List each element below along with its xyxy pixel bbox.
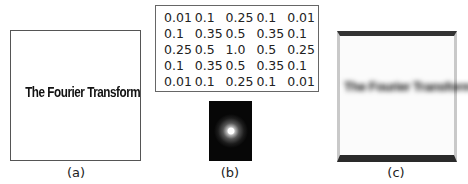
original-text: The Fourier Transform [25, 83, 126, 100]
kernel-cell: 0.01 [287, 74, 318, 90]
kernel-cell: 0.5 [226, 58, 257, 74]
kernel-cell: 0.5 [256, 42, 287, 58]
kernel-image [209, 101, 252, 161]
panel-c-blurred-image: The Fourier Transform [337, 31, 457, 162]
kernel-row: 0.25 0.5 1.0 0.5 0.25 [164, 42, 318, 58]
kernel-cell: 0.5 [195, 42, 226, 58]
kernel-row: 0.01 0.1 0.25 0.1 0.01 [164, 10, 318, 26]
kernel-cell: 0.1 [287, 26, 318, 42]
kernel-cell: 1.0 [226, 42, 257, 58]
kernel-cell: 0.25 [226, 74, 257, 90]
kernel-cell: 0.1 [256, 10, 287, 26]
blurred-text: The Fourier Transform [344, 79, 450, 97]
kernel-cell: 0.35 [195, 26, 226, 42]
kernel-cell: 0.1 [195, 74, 226, 90]
kernel-table: 0.01 0.1 0.25 0.1 0.01 0.1 0.35 0.5 0.35… [155, 5, 319, 92]
kernel-cell: 0.1 [164, 58, 195, 74]
kernel-row: 0.1 0.35 0.5 0.35 0.1 [164, 58, 318, 74]
kernel-cell: 0.1 [287, 58, 318, 74]
kernel-cell: 0.25 [226, 10, 257, 26]
kernel-row: 0.01 0.1 0.25 0.1 0.01 [164, 74, 318, 90]
panel-a-original-image: The Fourier Transform [10, 30, 141, 161]
caption-a: (a) [56, 165, 96, 180]
kernel-cell: 0.01 [164, 74, 195, 90]
kernel-cell: 0.5 [226, 26, 257, 42]
caption-c: (c) [376, 165, 416, 180]
kernel-cell: 0.1 [164, 26, 195, 42]
caption-b: (b) [210, 165, 250, 180]
kernel-row: 0.1 0.35 0.5 0.35 0.1 [164, 26, 318, 42]
kernel-cell: 0.25 [164, 42, 195, 58]
kernel-cell: 0.35 [256, 58, 287, 74]
kernel-cell: 0.35 [195, 58, 226, 74]
kernel-cell: 0.01 [287, 10, 318, 26]
kernel-cell: 0.1 [256, 74, 287, 90]
kernel-center-glow [214, 114, 248, 148]
kernel-cell: 0.35 [256, 26, 287, 42]
kernel-cell: 0.1 [195, 10, 226, 26]
kernel-cell: 0.01 [164, 10, 195, 26]
kernel-cell: 0.25 [287, 42, 318, 58]
